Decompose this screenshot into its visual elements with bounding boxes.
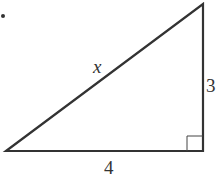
horizontal-leg-label: 4 — [104, 157, 114, 178]
right-angle-marker — [187, 136, 203, 151]
right-triangle — [6, 4, 203, 151]
bullet-dot — [1, 14, 5, 18]
vertical-leg-label: 3 — [206, 75, 216, 96]
triangle-diagram: x 3 4 — [0, 0, 220, 179]
hypotenuse-label: x — [92, 56, 102, 77]
